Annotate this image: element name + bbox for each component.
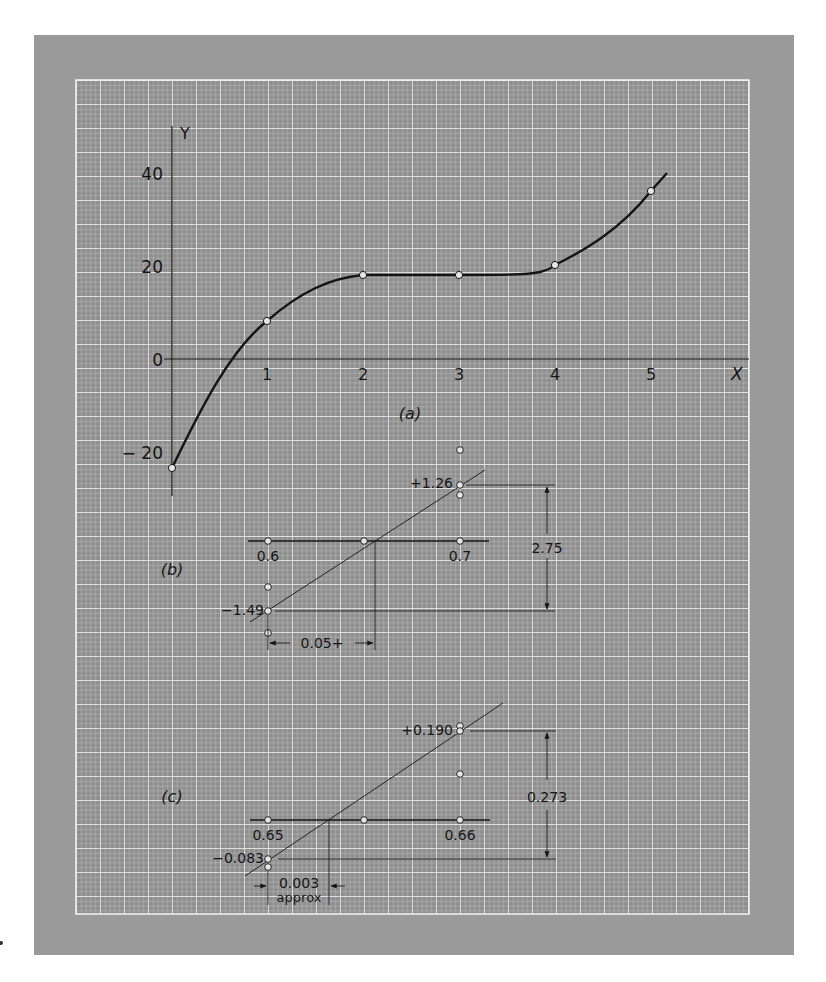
tick-b-07: 0.7 — [449, 548, 471, 564]
point-c-066 — [457, 817, 464, 824]
span-c-approx: approx — [277, 890, 322, 905]
x-tick-5: 5 — [646, 365, 656, 384]
point-b-lower — [265, 608, 272, 615]
span-c-horizontal: 0.003 — [279, 875, 319, 891]
panel-a-label: (a) — [399, 404, 421, 423]
point-b-lower-1 — [265, 584, 272, 591]
tick-c-066: 0.66 — [444, 827, 475, 843]
value-c-lower: −0.083 — [212, 850, 264, 866]
value-c-upper: +0.190 — [401, 722, 453, 738]
tick-c-065: 0.65 — [252, 827, 283, 843]
point-x2 — [359, 271, 366, 278]
point-x3 — [455, 271, 462, 278]
y-axis-label: Y — [179, 124, 190, 143]
point-x0 — [168, 464, 175, 471]
point-b-upper — [457, 482, 464, 489]
span-c-vertical: 0.273 — [527, 789, 567, 805]
point-c-lower-2 — [265, 864, 272, 871]
figure-canvas: Y X 40 20 0 − 20 1 2 3 4 5 (a) — [0, 0, 826, 982]
x-axis-label: X — [730, 364, 743, 384]
point-b-mid — [361, 538, 368, 545]
x-tick-1: 1 — [262, 365, 272, 384]
point-x4 — [551, 261, 558, 268]
point-c-mid-high — [457, 771, 464, 778]
y-tick-0: 0 — [152, 350, 163, 370]
point-c-mid — [361, 817, 368, 824]
panel-b-label: (b) — [161, 560, 184, 579]
x-tick-2: 2 — [358, 365, 368, 384]
point-c-065 — [265, 817, 272, 824]
point-b-top — [457, 447, 464, 454]
x-tick-3: 3 — [454, 365, 464, 384]
x-tick-4: 4 — [550, 365, 560, 384]
value-b-lower: −1.49 — [221, 602, 264, 618]
y-tick-20: 20 — [141, 257, 163, 277]
span-b-vertical: 2.75 — [531, 540, 562, 556]
point-x5 — [647, 187, 654, 194]
tick-b-06: 0.6 — [257, 548, 279, 564]
y-tick-minus-20: − 20 — [122, 443, 163, 463]
y-tick-40: 40 — [141, 164, 163, 184]
value-b-upper: +1.26 — [410, 475, 453, 491]
point-x1 — [263, 317, 270, 324]
point-b-upper-2 — [457, 492, 464, 499]
point-b-07 — [457, 538, 464, 545]
point-b-06 — [265, 538, 272, 545]
point-c-lower — [265, 856, 272, 863]
stray-mark — [0, 941, 3, 945]
span-b-horizontal: 0.05+ — [301, 635, 344, 651]
point-c-upper — [457, 728, 464, 735]
panel-c-label: (c) — [161, 787, 182, 806]
